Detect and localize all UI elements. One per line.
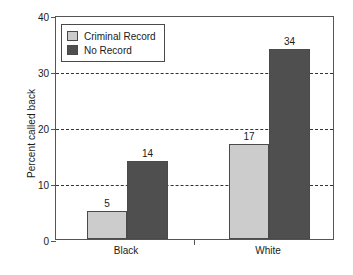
bar-white-no-record[interactable]: 34 — [269, 49, 310, 239]
x-axis-label-white: White — [255, 245, 281, 256]
bar-value-label: 17 — [243, 131, 254, 142]
legend-swatch-icon — [67, 45, 78, 55]
y-tick-label-40: 40 — [38, 12, 56, 23]
y-tick-label-0: 0 — [43, 236, 56, 247]
y-axis-title: Percent called back — [26, 54, 37, 214]
bar-value-label: 5 — [104, 198, 110, 209]
legend-item-label: Criminal Record — [84, 31, 156, 42]
bar-value-label: 34 — [284, 36, 295, 47]
legend-swatch-icon — [67, 31, 78, 41]
legend-item-no-record[interactable]: No Record — [67, 43, 156, 57]
y-tick-label-10: 10 — [38, 180, 56, 191]
bar-black-criminal-record[interactable]: 5 — [87, 211, 127, 239]
bar-white-criminal-record[interactable]: 17 — [229, 144, 269, 239]
legend: Criminal Record No Record — [61, 24, 165, 62]
legend-item-criminal-record[interactable]: Criminal Record — [67, 29, 156, 43]
bar-black-no-record[interactable]: 14 — [127, 161, 168, 239]
legend-item-label: No Record — [84, 45, 132, 56]
x-axis-label-black: Black — [114, 245, 138, 256]
bar-value-label: 14 — [142, 148, 153, 159]
y-tick-label-20: 20 — [38, 124, 56, 135]
x-axis-mid-tick — [194, 240, 195, 245]
bar-chart: Percent called back 40 30 20 10 0 5 14 1… — [0, 0, 353, 275]
y-tick-label-30: 30 — [38, 68, 56, 79]
